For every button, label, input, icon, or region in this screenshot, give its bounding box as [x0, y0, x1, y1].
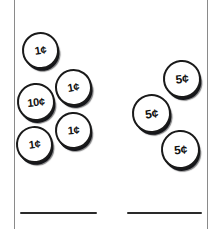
coin-groups-layer: 1¢1¢10¢1¢1¢5¢5¢5¢	[0, 0, 213, 229]
coin-penny: 1¢	[14, 124, 55, 165]
coin-dime: 10¢	[15, 81, 57, 123]
coin-value-label: 5¢	[175, 72, 189, 85]
coin-value-label: 1¢	[67, 125, 79, 137]
coin-counting-worksheet: 1¢1¢10¢1¢1¢5¢5¢5¢	[0, 0, 213, 229]
answer-line[interactable]	[20, 212, 97, 214]
answer-line[interactable]	[127, 212, 202, 214]
coin-nickel: 5¢	[129, 91, 173, 135]
coin-penny: 1¢	[20, 30, 62, 72]
coin-nickel: 5¢	[161, 58, 203, 100]
coin-penny: 1¢	[52, 66, 95, 109]
coin-value-label: 5¢	[174, 143, 188, 156]
coin-value-label: 10¢	[27, 96, 46, 109]
coin-value-label: 1¢	[28, 138, 41, 150]
coin-penny: 1¢	[54, 111, 93, 150]
coin-value-label: 1¢	[67, 81, 80, 94]
coin-value-label: 5¢	[144, 107, 158, 121]
coin-value-label: 1¢	[34, 44, 47, 57]
coin-nickel: 5¢	[159, 128, 201, 170]
